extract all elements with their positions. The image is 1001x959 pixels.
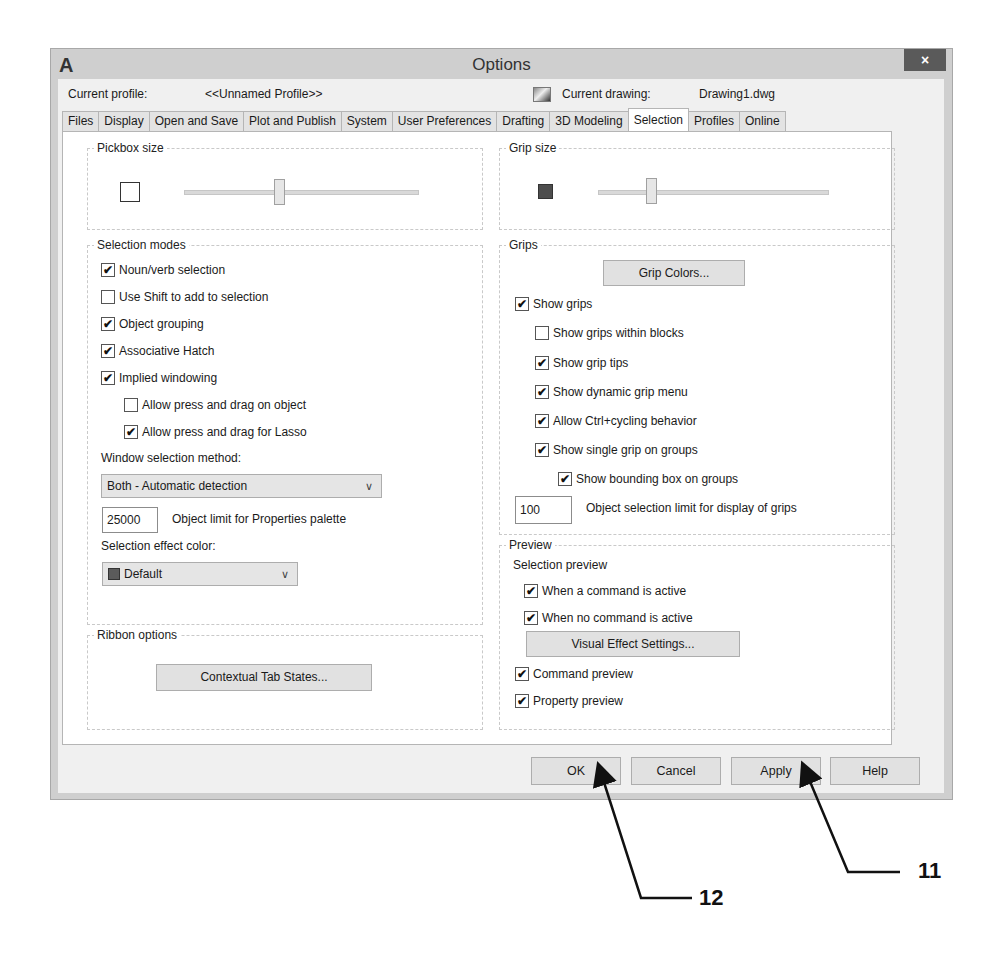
checkbox-unchecked-icon (101, 290, 115, 304)
when-command-active-checkbox[interactable]: ✔ When a command is active (524, 583, 686, 599)
selection-preview-label: Selection preview (513, 558, 607, 572)
grip-slider-track[interactable] (598, 190, 829, 195)
tab-profiles[interactable]: Profiles (688, 111, 740, 131)
checkbox-checked-icon: ✔ (558, 472, 572, 486)
checkbox-checked-icon: ✔ (124, 425, 138, 439)
profile-row: Current profile: <<Unnamed Profile>> Cur… (68, 87, 928, 105)
press-drag-object-checkbox[interactable]: Allow press and drag on object (124, 397, 306, 413)
associative-hatch-checkbox[interactable]: ✔ Associative Hatch (101, 343, 214, 359)
preview-group: Preview Selection preview ✔ When a comma… (499, 545, 895, 730)
object-limit-label: Object limit for Properties palette (172, 512, 346, 526)
ctrl-cycling-checkbox[interactable]: ✔ Allow Ctrl+cycling behavior (535, 413, 697, 429)
effect-color-dropdown[interactable]: Default ∨ (102, 562, 298, 586)
object-grouping-checkbox[interactable]: ✔ Object grouping (101, 316, 204, 332)
current-profile-value: <<Unnamed Profile>> (205, 87, 322, 101)
checkbox-checked-icon: ✔ (101, 371, 115, 385)
pickbox-size-group: Pickbox size (87, 148, 483, 230)
checkbox-checked-icon: ✔ (515, 667, 529, 681)
tab-selection[interactable]: Selection (628, 108, 689, 131)
ribbon-options-group: Ribbon options Contextual Tab States... (87, 635, 483, 730)
grip-limit-label: Object selection limit for display of gr… (586, 501, 797, 515)
checkbox-checked-icon: ✔ (524, 584, 538, 598)
checkbox-checked-icon: ✔ (535, 414, 549, 428)
ok-callout-number: 12 (699, 885, 723, 911)
checkbox-checked-icon: ✔ (535, 443, 549, 457)
when-no-command-active-checkbox[interactable]: ✔ When no command is active (524, 610, 693, 626)
chevron-down-icon: ∨ (281, 563, 289, 585)
pickbox-size-label: Pickbox size (94, 141, 167, 155)
show-dynamic-grip-menu-checkbox[interactable]: ✔ Show dynamic grip menu (535, 384, 688, 400)
apply-callout-number: 11 (918, 858, 941, 884)
cancel-button[interactable]: Cancel (631, 757, 721, 785)
apply-button[interactable]: Apply (731, 757, 821, 785)
checkbox-unchecked-icon (124, 398, 138, 412)
noun-verb-selection-checkbox[interactable]: ✔ Noun/verb selection (101, 262, 225, 278)
options-dialog: A Options × Current profile: <<Unnamed P… (50, 48, 953, 800)
grip-size-preview (538, 184, 553, 199)
press-drag-lasso-checkbox[interactable]: ✔ Allow press and drag for Lasso (124, 424, 307, 440)
checkbox-checked-icon: ✔ (101, 317, 115, 331)
tab-files[interactable]: Files (62, 111, 99, 131)
visual-effect-settings-button[interactable]: Visual Effect Settings... (526, 631, 740, 657)
command-preview-checkbox[interactable]: ✔ Command preview (515, 666, 633, 682)
ribbon-options-label: Ribbon options (94, 628, 180, 642)
window-method-label: Window selection method: (101, 451, 241, 465)
bounding-box-groups-checkbox[interactable]: ✔ Show bounding box on groups (558, 471, 738, 487)
checkbox-checked-icon: ✔ (101, 344, 115, 358)
pickbox-slider-thumb[interactable] (274, 179, 285, 205)
tab-3d-modeling[interactable]: 3D Modeling (549, 111, 628, 131)
show-grips-within-blocks-checkbox[interactable]: Show grips within blocks (535, 325, 684, 341)
tab-display[interactable]: Display (98, 111, 149, 131)
checkbox-checked-icon: ✔ (535, 356, 549, 370)
use-shift-checkbox[interactable]: Use Shift to add to selection (101, 289, 268, 305)
dialog-client-area: Current profile: <<Unnamed Profile>> Cur… (58, 79, 944, 793)
close-button[interactable]: × (904, 49, 946, 71)
pickbox-slider-track[interactable] (184, 190, 419, 195)
current-drawing-label: Current drawing: (562, 87, 651, 101)
chevron-down-icon: ∨ (365, 475, 373, 497)
show-grips-checkbox[interactable]: ✔ Show grips (515, 296, 592, 312)
window-method-dropdown[interactable]: Both - Automatic detection ∨ (101, 474, 382, 498)
contextual-tab-states-button[interactable]: Contextual Tab States... (156, 664, 372, 691)
tab-drafting[interactable]: Drafting (496, 111, 550, 131)
checkbox-checked-icon: ✔ (101, 263, 115, 277)
effect-color-label: Selection effect color: (101, 539, 216, 553)
checkbox-checked-icon: ✔ (535, 385, 549, 399)
grips-group: Grips Grip Colors... ✔ Show grips Show g… (499, 245, 895, 535)
title-bar[interactable]: A Options × (51, 49, 952, 81)
grip-size-label: Grip size (506, 141, 559, 155)
selection-tab-panel: Pickbox size Grip size Selection modes ✔… (62, 131, 892, 745)
property-preview-checkbox[interactable]: ✔ Property preview (515, 693, 623, 709)
selection-modes-group: Selection modes ✔ Noun/verb selection Us… (87, 245, 483, 625)
tab-online[interactable]: Online (739, 111, 786, 131)
single-grip-groups-checkbox[interactable]: ✔ Show single grip on groups (535, 442, 698, 458)
object-limit-input[interactable]: 25000 (102, 507, 158, 533)
selection-modes-label: Selection modes (94, 238, 189, 252)
checkbox-checked-icon: ✔ (524, 611, 538, 625)
tab-plot-and-publish[interactable]: Plot and Publish (243, 111, 342, 131)
preview-label: Preview (506, 538, 555, 552)
close-icon: × (921, 52, 929, 68)
checkbox-unchecked-icon (535, 326, 549, 340)
current-profile-label: Current profile: (68, 87, 147, 101)
grip-slider-thumb[interactable] (646, 178, 657, 204)
grip-limit-input[interactable]: 100 (515, 496, 572, 524)
tab-user-preferences[interactable]: User Preferences (392, 111, 497, 131)
dialog-title: Options (51, 55, 952, 75)
drawing-file-icon (533, 87, 551, 102)
ok-button[interactable]: OK (531, 757, 621, 785)
grip-colors-button[interactable]: Grip Colors... (603, 260, 745, 286)
grips-label: Grips (506, 238, 541, 252)
current-drawing-value: Drawing1.dwg (699, 87, 775, 101)
help-button[interactable]: Help (830, 757, 920, 785)
show-grip-tips-checkbox[interactable]: ✔ Show grip tips (535, 355, 628, 371)
tab-strip: Files Display Open and Save Plot and Pub… (62, 109, 785, 131)
grip-size-group: Grip size (499, 148, 895, 230)
tab-open-and-save[interactable]: Open and Save (149, 111, 244, 131)
tab-system[interactable]: System (341, 111, 393, 131)
color-swatch-icon (108, 568, 120, 580)
pickbox-preview (120, 182, 140, 202)
implied-windowing-checkbox[interactable]: ✔ Implied windowing (101, 370, 217, 386)
checkbox-checked-icon: ✔ (515, 297, 529, 311)
checkbox-checked-icon: ✔ (515, 694, 529, 708)
